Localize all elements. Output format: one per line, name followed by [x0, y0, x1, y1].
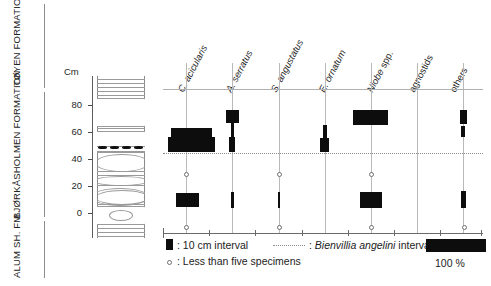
ten-cm-interval-swatch: [166, 239, 173, 250]
nodule-marker: [110, 146, 119, 149]
abundance-bar: [278, 192, 280, 208]
sparse-occurrence-marker: [369, 225, 374, 230]
sparse-specimen-label: : Less than five specimens: [177, 255, 301, 267]
bienvillia-interval-label: : Bienvillia angelini interval: [309, 239, 432, 251]
bienvillia-species-name: Bienvillia angelini: [315, 239, 396, 251]
taxon-label-c-acicularis: C. acicularis: [176, 44, 209, 94]
bedding-line: [97, 151, 145, 152]
bedding-line: [97, 232, 145, 233]
depth-axis-unit-label: Cm: [64, 66, 79, 77]
nodular-lens: [97, 154, 145, 172]
sparse-occurrence-marker: [277, 172, 282, 177]
taxon-label-e-ornatum: E. ornatum: [317, 48, 348, 94]
bedding-line: [97, 79, 145, 80]
abundance-bar: [320, 138, 329, 152]
percent-scale-caption: 100 %: [435, 257, 465, 269]
abundance-bar: [231, 192, 234, 208]
bienvillia-interval-swatch: [273, 245, 305, 246]
sparse-occurrence-marker: [462, 225, 467, 230]
nodule-marker: [134, 146, 143, 149]
bedding-line: [97, 128, 145, 129]
taxon-label-text: C. acicularis: [175, 43, 209, 94]
nodule-marker: [98, 146, 107, 149]
nodular-lens: [109, 210, 133, 221]
taxon-label-niobe-spp: Niobe spp.: [365, 49, 395, 94]
taxon-label-suffix: agnostids: [406, 53, 435, 94]
bedding-line: [97, 83, 145, 84]
taxon-label-text: S. angustatus: [268, 38, 305, 94]
bedding-line: [97, 204, 145, 205]
formation-label-column: TØYEN FORMATION BJØRKÅSHOLMEN FORMATION …: [0, 0, 58, 286]
depth-tick-label-20: 20: [60, 181, 82, 191]
taxon-label-suffix: spp.: [376, 49, 395, 72]
depth-tick-label-80: 80: [60, 100, 82, 110]
formation-label-alum: ALUM SH. FM.: [12, 212, 22, 278]
bedding-line: [97, 95, 145, 96]
sparse-occurrence-marker: [277, 225, 282, 230]
chart-top-rule: [163, 89, 483, 90]
depth-tick-label-40: 40: [60, 154, 82, 164]
formation-divider-rule: [44, 92, 45, 217]
percent-scale-bar: [426, 239, 486, 252]
abundance-bar: [461, 126, 465, 137]
abundance-bar: [168, 137, 215, 152]
nodular-lens: [97, 190, 145, 205]
sparse-occurrence-marker: [369, 172, 374, 177]
depth-tick-mark: [88, 213, 92, 214]
lithology-column: [97, 76, 145, 238]
depth-tick-mark: [88, 132, 92, 133]
nodule-marker: [122, 146, 131, 149]
depth-tick-label-0: 0: [60, 208, 82, 218]
chart-legend: : 10 cm interval : Bienvillia angelini i…: [163, 236, 491, 286]
abundance-bar: [176, 193, 199, 207]
chart-bottom-axis: [163, 233, 483, 234]
bedding-line: [97, 224, 145, 225]
taxon-label-text: E. ornatum: [316, 48, 348, 94]
formation-divider-rule: [44, 4, 45, 88]
abundance-bar: [226, 110, 239, 123]
depth-tick-mark: [88, 105, 92, 106]
bedding-line: [97, 171, 145, 172]
taxon-label-agnostids: agnostids: [407, 53, 435, 94]
depth-axis: Cm 80 60 40 20 0: [58, 0, 92, 286]
formation-divider-rule: [44, 221, 45, 278]
abundance-bar: [460, 110, 467, 124]
sparse-occurrence-marker: [184, 225, 189, 230]
sparse-specimen-swatch: [167, 260, 172, 265]
bienvillia-angelini-interval-line: [163, 153, 483, 154]
taxon-label-text: A. serratus: [223, 48, 254, 94]
stratigraphic-range-chart: TØYEN FORMATION BJØRKÅSHOLMEN FORMATION …: [0, 0, 491, 286]
depth-axis-line: [92, 76, 93, 238]
limestone-bed: [97, 131, 145, 153]
bedding-line: [97, 185, 145, 186]
depth-tick-mark: [88, 186, 92, 187]
limestone-bed: [97, 98, 145, 127]
depth-tick-label-60: 60: [60, 127, 82, 137]
bedding-line: [97, 236, 145, 237]
taxon-label-a-serratus: A. serratus: [224, 49, 254, 94]
abundance-bar: [323, 125, 327, 139]
abundance-bar: [353, 110, 388, 125]
abundance-bar: [461, 191, 466, 208]
abundance-bar: [231, 123, 234, 138]
ten-cm-interval-label: : 10 cm interval: [177, 239, 248, 251]
bedding-line: [97, 91, 145, 92]
bedding-line: [97, 228, 145, 229]
formation-label-bjorkasholmen: BJØRKÅSHOLMEN FORMATION: [12, 70, 22, 219]
depth-tick-mark: [88, 159, 92, 160]
taxon-label-s-angustatus: S. angustatus: [269, 38, 305, 94]
abundance-bar: [229, 137, 235, 152]
abundance-bar: [360, 192, 382, 208]
bedding-line: [97, 87, 145, 88]
sparse-occurrence-marker: [184, 172, 189, 177]
